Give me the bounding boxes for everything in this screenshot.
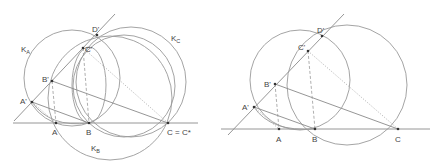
segment-c-prime-b — [83, 48, 89, 123]
label-b: B — [86, 128, 91, 137]
label-c: C — [395, 135, 401, 144]
segment-b-prime-c — [275, 84, 398, 129]
segment-c-prime-c — [83, 48, 168, 123]
geometry-diagram: A B C = C* A' B' C' D' KA KB KC A B C A' — [0, 0, 442, 167]
label-b-prime: B' — [42, 75, 49, 84]
label-c: C = C* — [167, 128, 191, 137]
label-k-b: KB — [91, 144, 100, 154]
point-c-prime — [307, 50, 310, 53]
label-a: A — [52, 128, 58, 137]
point-b-prime — [274, 83, 277, 86]
point-c — [167, 122, 170, 125]
label-k-c: KC — [171, 34, 180, 44]
segment-c-prime-c — [308, 51, 398, 129]
label-a: A — [276, 135, 282, 144]
point-a — [278, 128, 281, 131]
segment-b-prime-a — [275, 84, 279, 129]
point-b-prime — [51, 80, 54, 83]
label-d-prime: D' — [92, 25, 100, 34]
point-c-prime — [82, 47, 85, 50]
segment-b-prime-c — [52, 81, 168, 123]
point-d-prime — [321, 35, 324, 38]
point-b — [88, 122, 91, 125]
label-d-prime: D' — [317, 26, 325, 35]
label-a-prime: A' — [242, 103, 249, 112]
point-b — [314, 128, 317, 131]
point-a — [55, 122, 58, 125]
left-figure: A B C = C* A' B' C' D' KA KB KC — [13, 14, 198, 160]
circle-k-b — [48, 36, 172, 160]
point-a-prime — [253, 106, 256, 109]
point-a-prime — [31, 101, 34, 104]
label-k-a: KA — [21, 45, 30, 55]
label-c-prime: C' — [298, 43, 306, 52]
label-a-prime: A' — [20, 97, 27, 106]
circle-small — [72, 47, 106, 123]
segment-a-prime-a — [254, 107, 279, 129]
slanted-line — [14, 14, 115, 121]
point-c — [397, 128, 400, 131]
label-c-prime: C' — [85, 45, 93, 54]
point-d-prime — [96, 34, 99, 37]
segment-c-prime-b — [308, 51, 315, 129]
segment-a-prime-b — [254, 107, 315, 129]
label-b-prime: B' — [264, 80, 271, 89]
right-figure: A B C A' B' C' D' — [221, 14, 430, 145]
label-b: B — [312, 135, 317, 144]
segment-b-prime-a — [52, 81, 56, 123]
